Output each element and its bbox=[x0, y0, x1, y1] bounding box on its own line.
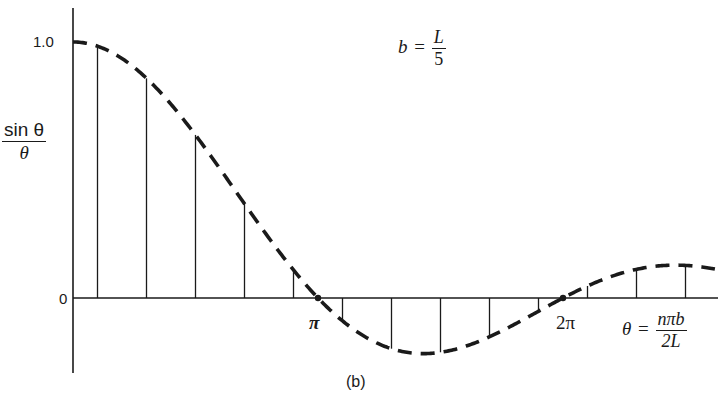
y-label-denominator: θ bbox=[19, 142, 28, 163]
y-axis-label: sin θ θ bbox=[2, 120, 46, 163]
zero-crossing-dot bbox=[560, 295, 566, 301]
sinc-envelope-dashed bbox=[73, 42, 715, 354]
annotation-b-equals-L-over-5: b = L 5 bbox=[398, 28, 446, 69]
x-tick-label-2pi: 2π bbox=[556, 312, 575, 334]
stem-series bbox=[98, 46, 686, 352]
figure-caption: (b) bbox=[346, 373, 366, 391]
zero-crossing-dot bbox=[315, 295, 321, 301]
y-label-numerator: sin θ bbox=[2, 120, 46, 142]
y-tick-label-1: 1.0 bbox=[33, 33, 54, 50]
y-tick-label-0: 0 bbox=[59, 290, 67, 307]
sinc-chart bbox=[0, 0, 725, 402]
x-axis-label: θ = nπb 2L bbox=[622, 310, 687, 351]
x-tick-label-pi: π bbox=[309, 312, 319, 334]
